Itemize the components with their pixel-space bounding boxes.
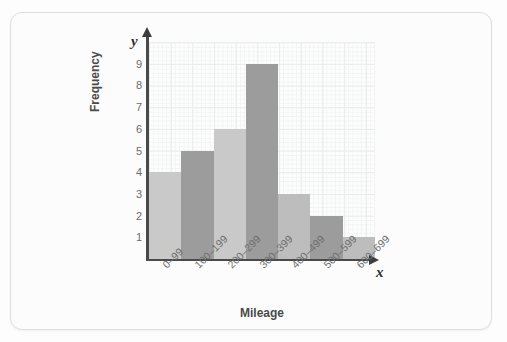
y-tick-2: 2 — [120, 210, 142, 221]
y-axis-tick-labels: 987654321 — [118, 0, 142, 342]
bar-series — [149, 42, 375, 259]
y-axis-title: Frequency — [88, 51, 102, 112]
y-axis-arrow-icon — [142, 27, 152, 37]
bar-2 — [181, 151, 213, 260]
y-axis-line — [146, 36, 149, 260]
x-axis-title: Mileage — [149, 306, 375, 320]
y-tick-8: 8 — [120, 80, 142, 91]
bar-4 — [246, 64, 278, 259]
y-tick-4: 4 — [120, 167, 142, 178]
histogram-chart: y x 987654321 0–99100–199200–299300–3994… — [0, 0, 507, 342]
y-tick-3: 3 — [120, 188, 142, 199]
y-tick-1: 1 — [120, 232, 142, 243]
x-axis-tick-labels: 0–99100–199200–299300–399400–499500–5996… — [149, 262, 379, 308]
page-root: y x 987654321 0–99100–199200–299300–3994… — [0, 0, 507, 342]
y-tick-7: 7 — [120, 102, 142, 113]
y-tick-5: 5 — [120, 145, 142, 156]
y-tick-9: 9 — [120, 58, 142, 69]
y-tick-6: 6 — [120, 123, 142, 134]
